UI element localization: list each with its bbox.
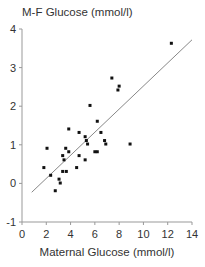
- data-point: [75, 166, 78, 169]
- data-point: [49, 174, 52, 177]
- data-point: [59, 182, 62, 185]
- data-points: [42, 42, 173, 192]
- y-tick-label: 0: [10, 177, 16, 189]
- x-tick-label: 4: [68, 228, 74, 240]
- x-axis-title: Maternal Glucose (mmol/l): [0, 246, 205, 258]
- data-point: [96, 150, 99, 153]
- y-tick-label: 3: [10, 62, 16, 74]
- data-point: [96, 120, 99, 123]
- data-point: [99, 131, 102, 134]
- data-point: [63, 158, 66, 161]
- data-point: [61, 170, 64, 173]
- data-point: [46, 147, 49, 150]
- data-point: [54, 189, 57, 192]
- data-point: [67, 150, 70, 153]
- regression-line-path: [32, 40, 192, 192]
- x-tick-label: 12: [162, 228, 174, 240]
- data-point: [61, 154, 64, 157]
- y-tick-label: 4: [10, 23, 16, 35]
- data-point: [84, 158, 87, 161]
- data-point: [116, 88, 119, 91]
- data-point: [42, 166, 45, 169]
- data-point: [64, 147, 67, 150]
- data-point: [65, 170, 68, 173]
- data-point: [103, 139, 106, 142]
- data-point: [78, 131, 81, 134]
- data-point: [58, 178, 61, 181]
- x-tick-label: 6: [92, 228, 98, 240]
- x-tick-label: 14: [186, 228, 198, 240]
- data-point: [85, 139, 88, 142]
- data-point: [89, 104, 92, 107]
- data-point: [86, 143, 89, 146]
- x-tick-label: 0: [19, 228, 25, 240]
- y-tick-label: -1: [6, 216, 16, 228]
- data-point: [78, 154, 81, 157]
- data-point: [118, 85, 121, 88]
- data-point: [84, 135, 87, 138]
- x-tick-label: 2: [43, 228, 49, 240]
- data-point: [110, 77, 113, 80]
- data-point: [129, 143, 132, 146]
- y-tick-label: 1: [10, 139, 16, 151]
- regression-line: [32, 40, 192, 192]
- data-point: [104, 143, 107, 146]
- x-tick-label: 8: [116, 228, 122, 240]
- scatter-plot: -10123402468101214: [0, 0, 205, 267]
- data-point: [67, 127, 70, 130]
- data-point: [170, 42, 173, 45]
- x-tick-label: 10: [137, 228, 149, 240]
- y-tick-label: 2: [10, 100, 16, 112]
